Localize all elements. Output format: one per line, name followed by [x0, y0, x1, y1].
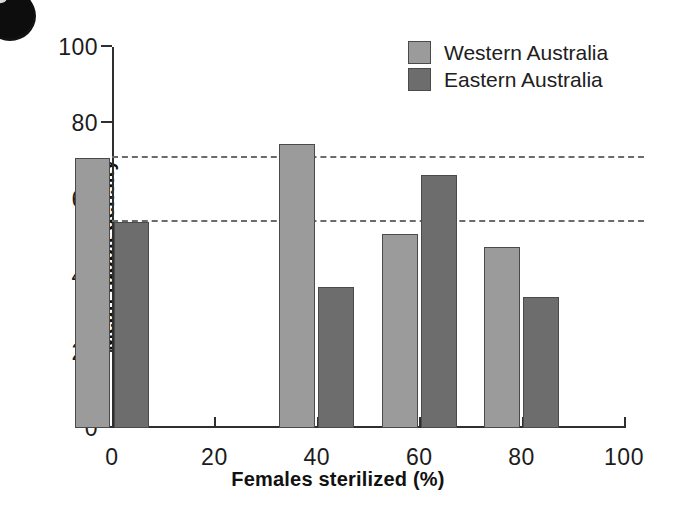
x-axis-tick	[214, 417, 216, 428]
chart-legend: Western AustraliaEastern Australia	[408, 40, 608, 92]
x-axis-tick-label: 60	[406, 444, 433, 471]
bar-eastern-australia-40	[318, 287, 354, 428]
legend-label: Eastern Australia	[444, 68, 603, 92]
y-axis-tick	[101, 121, 112, 123]
bar-western-australia-60	[382, 234, 418, 428]
x-axis-tick	[624, 417, 626, 428]
legend-swatch-western	[408, 41, 431, 64]
y-axis-tick	[101, 45, 112, 47]
bar-western-australia-0	[75, 158, 111, 429]
bar-eastern-australia-0	[114, 222, 150, 428]
x-axis-tick-labels: 020406080100	[112, 430, 624, 464]
x-axis-tick-label: 0	[105, 444, 118, 471]
x-axis-tick-label: 100	[604, 444, 644, 471]
y-axis-tick-label: 100	[58, 34, 98, 61]
x-axis-tick-label: 40	[304, 444, 331, 471]
bar-eastern-australia-60	[421, 175, 457, 428]
legend-label: Western Australia	[444, 41, 608, 65]
bar-western-australia-40	[279, 144, 315, 428]
bar-eastern-australia-80	[523, 297, 559, 428]
legend-row: Western Australia	[408, 40, 608, 65]
western-baseline-reference	[112, 156, 644, 158]
legend-row: Eastern Australia	[408, 67, 608, 92]
y-axis-tick-label: 80	[71, 110, 98, 137]
x-axis-title: Females sterilized (%)	[231, 468, 444, 491]
scan-artifact-blob	[0, 0, 34, 38]
bar-western-australia-80	[484, 247, 520, 428]
legend-swatch-eastern	[408, 68, 431, 91]
chart-figure: Mean rabbit density Females sterilized (…	[0, 0, 676, 509]
plot-area	[112, 47, 624, 428]
x-axis-tick-label: 20	[201, 444, 228, 471]
x-axis-tick-label: 80	[508, 444, 535, 471]
eastern-baseline-reference	[112, 220, 644, 222]
